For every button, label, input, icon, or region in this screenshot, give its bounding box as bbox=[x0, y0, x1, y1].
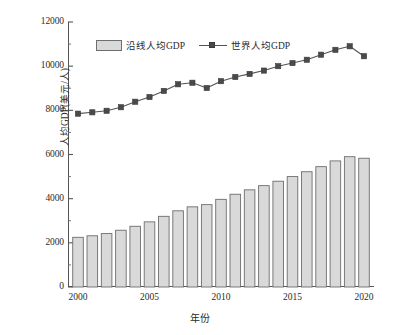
data-point-marker bbox=[147, 94, 152, 99]
data-point-marker bbox=[261, 68, 266, 73]
x-tick-label: 2010 bbox=[196, 292, 246, 302]
data-point-marker bbox=[133, 99, 138, 104]
bar bbox=[287, 177, 298, 287]
x-axis-title: 年份 bbox=[0, 310, 400, 325]
data-point-marker bbox=[190, 80, 195, 85]
y-axis-title: 人均GDP(美元/人) bbox=[57, 27, 71, 187]
x-tick-label: 2000 bbox=[53, 292, 103, 302]
data-point-marker bbox=[304, 57, 309, 62]
data-point-marker bbox=[290, 60, 295, 65]
data-point-marker bbox=[318, 52, 323, 57]
data-point-marker bbox=[161, 88, 166, 93]
legend-label-bar: 沿线人均GDP bbox=[126, 38, 185, 52]
legend-entry-bar: 沿线人均GDP bbox=[96, 38, 185, 52]
bar-series bbox=[73, 157, 370, 287]
line-series-markers bbox=[75, 44, 366, 117]
data-point-marker bbox=[104, 108, 109, 113]
y-tick-label: 12000 bbox=[4, 17, 64, 27]
bar bbox=[302, 172, 313, 287]
bar bbox=[130, 226, 141, 287]
y-tick-label: 6000 bbox=[4, 150, 64, 160]
bar bbox=[201, 205, 212, 287]
y-tick-label: 2000 bbox=[4, 238, 64, 248]
bar bbox=[216, 199, 227, 287]
data-point-marker bbox=[276, 64, 281, 69]
legend-bar-swatch-icon bbox=[96, 40, 122, 51]
data-point-marker bbox=[75, 111, 80, 116]
data-point-marker bbox=[176, 82, 181, 87]
data-point-marker bbox=[247, 71, 252, 76]
legend-line-swatch-icon bbox=[199, 41, 227, 50]
data-point-marker bbox=[347, 44, 352, 49]
y-tick-label: 4000 bbox=[4, 194, 64, 204]
data-point-marker bbox=[90, 110, 95, 115]
bar bbox=[173, 211, 184, 287]
bar bbox=[144, 222, 155, 287]
data-point-marker bbox=[233, 74, 238, 79]
bar bbox=[330, 161, 341, 287]
bar bbox=[344, 157, 355, 287]
bar bbox=[73, 237, 84, 287]
data-point-marker bbox=[361, 54, 366, 59]
bar bbox=[87, 236, 98, 287]
y-tick-label: 10000 bbox=[4, 61, 64, 71]
bar bbox=[359, 158, 370, 287]
bar bbox=[159, 216, 170, 287]
legend-label-line: 世界人均GDP bbox=[231, 38, 290, 52]
bar bbox=[273, 181, 284, 287]
chart-legend: 沿线人均GDP 世界人均GDP bbox=[96, 38, 290, 52]
bar bbox=[230, 194, 241, 287]
x-tick-label: 2020 bbox=[339, 292, 389, 302]
bar bbox=[244, 190, 255, 287]
data-point-marker bbox=[333, 47, 338, 52]
y-tick-label: 8000 bbox=[4, 105, 64, 115]
bar bbox=[116, 230, 127, 287]
chart-figure: 020004000600080001000012000 人均GDP(美元/人) … bbox=[0, 0, 400, 335]
y-tick-label: 0 bbox=[4, 282, 64, 292]
legend-square-marker-icon bbox=[209, 42, 215, 48]
legend-entry-line: 世界人均GDP bbox=[199, 38, 290, 52]
bar bbox=[101, 234, 112, 287]
data-point-marker bbox=[218, 79, 223, 84]
bar bbox=[259, 186, 270, 287]
x-tick-label: 2015 bbox=[267, 292, 317, 302]
bar bbox=[187, 207, 198, 287]
data-point-marker bbox=[204, 85, 209, 90]
bar bbox=[316, 167, 327, 287]
x-tick-label: 2005 bbox=[125, 292, 175, 302]
data-point-marker bbox=[118, 105, 123, 110]
